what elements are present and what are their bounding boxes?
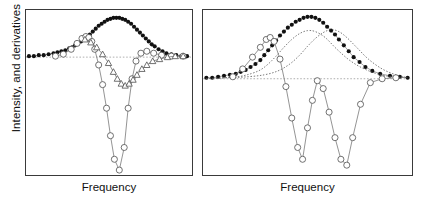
plot-panel-left — [25, 9, 193, 176]
plot-panel-right — [202, 9, 413, 176]
y-axis-label: Intensity, and derivatives — [10, 0, 22, 148]
plot-left-canvas — [26, 10, 191, 174]
figure-container: Intensity, and derivatives Frequency Fre… — [0, 0, 426, 205]
x-axis-label-right: Frequency — [202, 181, 413, 193]
plot-right-canvas — [203, 10, 411, 174]
x-axis-label-left: Frequency — [25, 181, 193, 193]
